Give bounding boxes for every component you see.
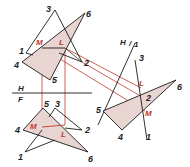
top-triangle-456 [22,13,85,80]
plane-label-h-aux: H [120,38,126,47]
aux-label-5: 5 [96,105,102,115]
top-label-5: 5 [52,75,58,85]
aux-label-3: 3 [139,53,144,63]
top-label-l: L [59,38,64,47]
front-view: 5 3 4 2 1 6 M L [14,99,94,164]
top-view: 3 6 1 4 2 5 M L [13,4,92,85]
front-label-1: 1 [18,152,23,162]
aux-label-2: 2 [145,93,151,103]
front-label-m: M [30,122,37,131]
plane-label-h: H [18,84,24,93]
svg-text:/: / [128,39,132,48]
top-label-3: 3 [46,4,51,14]
aux-label-4: 4 [117,132,123,142]
top-label-2: 2 [83,58,89,68]
top-label-1: 1 [19,46,24,56]
front-label-3: 3 [55,99,60,109]
top-label-6: 6 [86,9,92,19]
aux-label-m: M [145,109,152,118]
plane-label-1-aux: 1 [134,40,139,49]
front-label-2: 2 [84,125,90,135]
front-label-4: 4 [14,125,20,135]
aux-label-l: L [139,79,144,88]
top-label-4: 4 [13,60,19,70]
front-label-l: L [61,130,66,139]
plane-label-f: F [18,95,24,104]
aux-view: 3 1 5 4 6 2 L M [96,53,183,142]
aux-label-6: 6 [177,82,183,92]
top-label-m: M [36,38,43,47]
front-label-5: 5 [44,99,50,109]
intersection-diagram: 3 6 1 4 2 5 M L H F 5 3 4 2 1 6 M L H / … [0,0,190,167]
front-label-6: 6 [88,154,94,164]
aux-label-1: 1 [146,132,151,142]
